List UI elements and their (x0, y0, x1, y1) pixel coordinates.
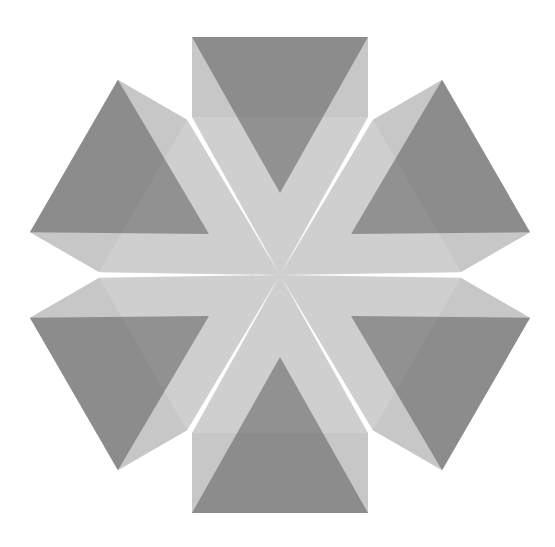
hexagonal-star-figure (0, 0, 555, 547)
geometric-figure-canvas (0, 0, 555, 547)
